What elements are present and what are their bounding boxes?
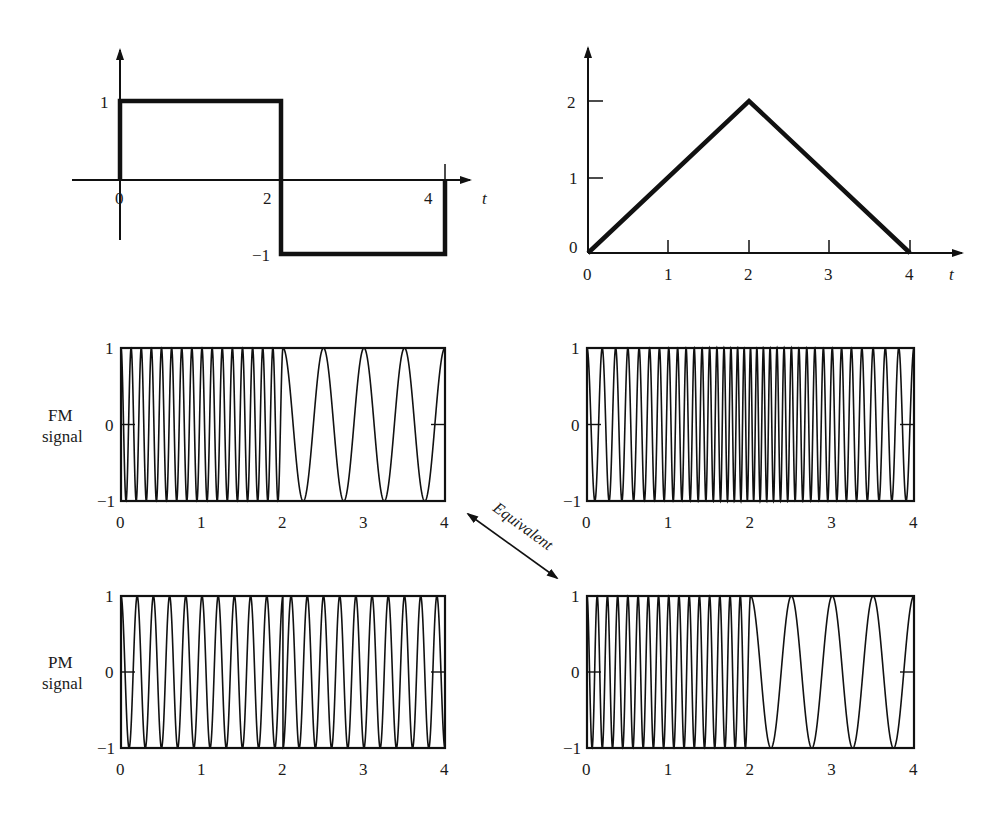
triangle-wave-plot: 0 1 2 0 1 2 3 4 t bbox=[567, 48, 962, 284]
xtick-4: 4 bbox=[905, 265, 914, 284]
ytick-0: 0 bbox=[569, 238, 578, 257]
ytick-1: 1 bbox=[569, 169, 578, 188]
xtick-label: 4 bbox=[440, 760, 449, 779]
fm-row-label-2: signal bbox=[42, 427, 83, 446]
square-wave-curve bbox=[120, 101, 445, 254]
pm-signal-square-plot: 10−101234 bbox=[97, 587, 449, 779]
ytick-label: −1 bbox=[563, 739, 581, 758]
ytick-1: 1 bbox=[100, 93, 109, 112]
xtick-label: 3 bbox=[359, 760, 368, 779]
xtick-label: 2 bbox=[746, 760, 755, 779]
xtick-label: 0 bbox=[116, 760, 125, 779]
xtick-0: 0 bbox=[583, 265, 592, 284]
ytick-label: 0 bbox=[105, 416, 114, 435]
equivalent-label: Equivalent bbox=[489, 498, 557, 554]
xtick-label: 4 bbox=[440, 513, 449, 532]
xtick-label: 2 bbox=[278, 760, 287, 779]
xtick-label: 4 bbox=[909, 513, 918, 532]
fm-row-label-1: FM bbox=[48, 406, 73, 425]
xtick-label: 0 bbox=[582, 513, 591, 532]
xtick-2: 2 bbox=[744, 265, 753, 284]
xtick-label: 1 bbox=[197, 513, 206, 532]
xtick-label: 1 bbox=[664, 513, 673, 532]
xtick-label: 4 bbox=[909, 760, 918, 779]
xtick-0: 0 bbox=[115, 189, 124, 208]
modulated-waveform bbox=[121, 348, 445, 501]
xtick-label: 2 bbox=[278, 513, 287, 532]
ytick-label: 0 bbox=[105, 663, 114, 682]
xtick-1: 1 bbox=[664, 265, 673, 284]
modulated-waveform bbox=[121, 596, 445, 748]
pm-signal-triangle-plot: 10−101234 bbox=[563, 587, 918, 779]
ytick-2: 2 bbox=[567, 93, 576, 112]
ytick-label: 1 bbox=[571, 339, 580, 358]
xtick-label: 3 bbox=[359, 513, 368, 532]
ytick-label: −1 bbox=[563, 492, 581, 511]
xtick-label: 3 bbox=[827, 513, 836, 532]
equivalent-annotation: Equivalent bbox=[468, 498, 557, 578]
xtick-label: 2 bbox=[746, 513, 755, 532]
xtick-4: 4 bbox=[424, 189, 433, 208]
xtick-label: 3 bbox=[827, 760, 836, 779]
fm-signal-square-plot: 10−101234 bbox=[97, 339, 449, 532]
pm-row-label-2: signal bbox=[42, 674, 83, 693]
xtick-label: 0 bbox=[582, 760, 591, 779]
ytick-label: 1 bbox=[571, 587, 580, 606]
xtick-2: 2 bbox=[263, 189, 272, 208]
t-axis-label: t bbox=[482, 189, 488, 208]
fm-signal-triangle-plot: 10−101234 bbox=[563, 339, 918, 532]
modulated-waveform bbox=[587, 348, 914, 501]
modulation-figure: 1 −1 0 2 4 t 0 1 2 0 1 2 3 4 t FM signal… bbox=[0, 0, 983, 814]
triangle-wave-curve bbox=[588, 101, 910, 253]
ytick-label: 0 bbox=[571, 663, 580, 682]
xtick-label: 1 bbox=[197, 760, 206, 779]
t-axis-label: t bbox=[949, 265, 955, 284]
square-wave-plot: 1 −1 0 2 4 t bbox=[72, 50, 488, 265]
ytick-label: −1 bbox=[97, 492, 115, 511]
ytick-label: −1 bbox=[97, 739, 115, 758]
ytick-label: 1 bbox=[105, 587, 114, 606]
pm-row-label-1: PM bbox=[48, 653, 73, 672]
ytick-neg1: −1 bbox=[252, 246, 270, 265]
xtick-3: 3 bbox=[824, 265, 833, 284]
xtick-label: 0 bbox=[116, 513, 125, 532]
ytick-label: 1 bbox=[105, 339, 114, 358]
modulated-waveform bbox=[587, 596, 914, 748]
xtick-label: 1 bbox=[664, 760, 673, 779]
ytick-label: 0 bbox=[571, 416, 580, 435]
